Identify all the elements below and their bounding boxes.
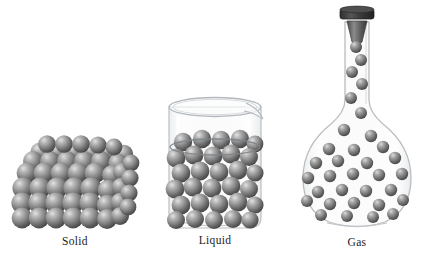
panel-gas: Gas [283, 0, 431, 268]
states-of-matter-figure: Solid [0, 0, 431, 268]
liquid-label: Liquid [145, 234, 285, 246]
solid-lattice-spheres [11, 135, 139, 229]
solid-lattice-svg [0, 0, 150, 232]
solid-label: Solid [0, 235, 150, 247]
liquid-illustration [145, 0, 285, 232]
gas-illustration [283, 0, 431, 232]
beaker-svg [145, 0, 285, 232]
flask-svg [283, 0, 431, 232]
panel-liquid: Liquid [145, 0, 285, 268]
panel-solid: Solid [0, 0, 150, 268]
gas-label: Gas [283, 236, 431, 248]
solid-illustration [0, 0, 150, 232]
